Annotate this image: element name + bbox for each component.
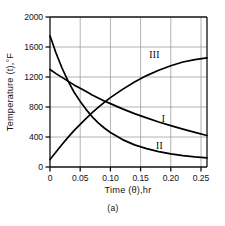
y-tick-label: 1600: [24, 42, 43, 52]
x-tick-labels: 0 0.05 0.10 0.15 0.20 0.25: [48, 173, 210, 183]
curve-label-III: III: [149, 49, 159, 60]
figure-caption: (a): [107, 203, 119, 213]
y-tick-labels: 2000 1600 1200 800 400 0: [24, 12, 43, 172]
y-tick-label: 2000: [24, 12, 43, 22]
x-axis-ticks: [50, 167, 201, 172]
y-axis-title: Temperature (t),°F: [5, 53, 15, 131]
x-tick-label: 0.10: [102, 173, 119, 183]
x-tick-label: 0.25: [193, 173, 210, 183]
x-tick-label: 0.20: [163, 173, 180, 183]
y-tick-label: 400: [29, 132, 43, 142]
y-axis-ticks: [46, 17, 51, 167]
x-axis-title: Time (θ),hr: [105, 185, 152, 195]
y-tick-label: 1200: [24, 72, 43, 82]
x-tick-label: 0.15: [132, 173, 149, 183]
temperature-vs-time-chart: 2000 1600 1200 800 400 0 0 0.05 0.10 0.1…: [0, 0, 225, 226]
y-tick-label: 800: [29, 102, 43, 112]
y-tick-label: 0: [38, 162, 43, 172]
curve-label-II: II: [156, 140, 163, 151]
x-tick-label: 0.05: [72, 173, 89, 183]
x-tick-label: 0: [48, 173, 53, 183]
figure-container: 2000 1600 1200 800 400 0 0 0.05 0.10 0.1…: [0, 0, 225, 226]
curve-label-I: I: [162, 113, 166, 124]
